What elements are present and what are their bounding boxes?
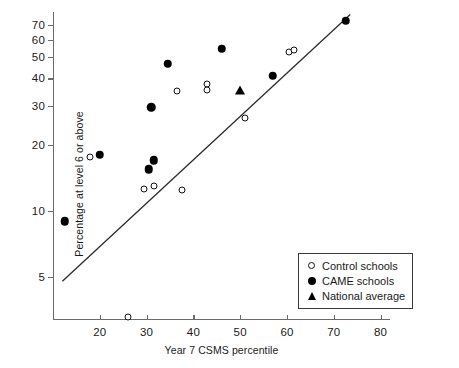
- data-point-filled-circle: [341, 17, 350, 26]
- data-point-open-circle: [291, 47, 298, 54]
- data-point-filled-circle: [60, 217, 69, 226]
- data-point-open-circle: [87, 154, 94, 161]
- data-point-filled-circle: [96, 150, 105, 159]
- legend-item-label: National average: [322, 290, 405, 302]
- x-tick-label: 80: [374, 326, 387, 338]
- data-point-filled-circle: [269, 72, 278, 81]
- data-point-open-circle: [124, 314, 131, 321]
- y-tick-label: 20: [32, 139, 45, 151]
- filled-triangle-icon: [305, 292, 318, 300]
- data-point-filled-circle: [163, 60, 172, 69]
- data-point-filled-circle: [149, 156, 158, 165]
- y-tick-label: 10: [32, 205, 45, 217]
- data-point-filled-circle: [217, 44, 226, 53]
- y-tick-label: 70: [32, 19, 45, 31]
- x-axis-title: Year 7 CSMS percentile: [53, 344, 390, 356]
- legend-item: CAME schools: [305, 273, 405, 288]
- legend-item-label: CAME schools: [322, 275, 394, 287]
- filled-circle-icon-shape: [308, 277, 316, 285]
- data-point-open-circle: [241, 114, 248, 121]
- y-tick-label: 40: [32, 72, 45, 84]
- y-tick-label: 50: [32, 51, 45, 63]
- data-point-filled-circle: [147, 103, 156, 112]
- y-tick-label: 30: [32, 100, 45, 112]
- filled-triangle-icon-shape: [308, 292, 316, 300]
- filled-circle-icon: [305, 277, 318, 285]
- data-point-filled-circle: [145, 165, 154, 174]
- x-tick-label: 70: [327, 326, 340, 338]
- open-circle-icon-shape: [308, 262, 315, 269]
- y-tick-label: 60: [32, 34, 45, 46]
- x-tick-label: 30: [140, 326, 153, 338]
- legend-item-label: Control schools: [322, 260, 398, 272]
- data-point-open-circle: [204, 86, 211, 93]
- open-circle-icon: [305, 262, 318, 269]
- x-tick-label: 60: [280, 326, 293, 338]
- legend-item: National average: [305, 288, 405, 303]
- legend-item: Control schools: [305, 258, 405, 273]
- x-tick-label: 20: [93, 326, 106, 338]
- data-point-open-circle: [174, 88, 181, 95]
- data-point-open-circle: [150, 182, 157, 189]
- y-tick-label: 5: [38, 271, 45, 283]
- x-tick-label: 50: [234, 326, 247, 338]
- chart-legend: Control schoolsCAME schoolsNational aver…: [298, 253, 413, 309]
- x-tick-label: 40: [187, 326, 200, 338]
- data-point-filled-triangle: [235, 85, 245, 94]
- scatter-chart-figure: Percentage at level 6 or above 510203040…: [0, 0, 459, 368]
- data-point-open-circle: [141, 185, 148, 192]
- data-point-open-circle: [178, 186, 185, 193]
